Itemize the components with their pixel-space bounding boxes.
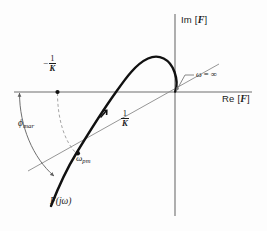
inverse-k-label: 1K xyxy=(121,109,129,128)
phase-margin-label: ϕmar xyxy=(18,119,34,130)
re-axis-text: Re [ xyxy=(222,93,240,104)
nyquist-curve xyxy=(51,57,177,206)
im-axis-variable: F xyxy=(198,14,205,25)
fraction-numerator: 1 xyxy=(121,109,129,118)
omega-infinity-label: ω = ∞ xyxy=(196,70,217,79)
im-axis-bracket-close: ] xyxy=(205,14,208,25)
inv-k-fraction: 1K xyxy=(121,109,129,128)
fraction-denominator: K xyxy=(121,118,129,128)
neg-inverse-k-label: −1K xyxy=(43,54,56,73)
phase-margin-arc xyxy=(20,93,55,176)
phi-subscript: mar xyxy=(23,122,34,130)
nyquist-figure: Im [F] Re [F] ω = ∞ −1K 1K ϕmar ωpm F(jω… xyxy=(0,0,267,231)
fraction-denominator: K xyxy=(49,63,57,73)
real-axis-label: Re [F] xyxy=(222,94,250,104)
neg-inv-k-point-marker xyxy=(55,90,59,94)
re-axis-bracket-close: ] xyxy=(247,93,250,104)
nyquist-plot-canvas xyxy=(0,0,267,231)
fraction-numerator: 1 xyxy=(49,54,57,63)
im-axis-text: Im [ xyxy=(181,14,198,25)
omega-pm-label: ωpm xyxy=(76,154,90,164)
neg-inv-k-fraction: 1K xyxy=(49,54,57,73)
imaginary-axis-label: Im [F] xyxy=(181,15,207,25)
transfer-function-label: F(jω) xyxy=(50,197,71,207)
omega-subscript: pm xyxy=(82,157,90,164)
